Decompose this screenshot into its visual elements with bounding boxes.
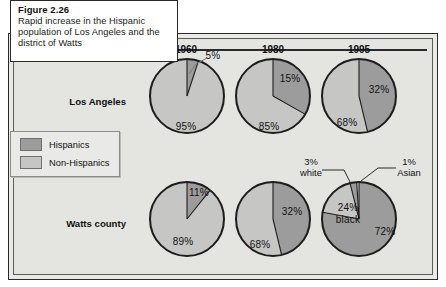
pct-watts-1995-hispanic: 72%	[375, 226, 396, 237]
column-header-1960: 1960	[175, 44, 197, 55]
legend-item-non-hispanics: Non-Hispanics	[20, 156, 119, 169]
pct-watts-1995-black-text: 24%black	[336, 202, 360, 225]
pct-watts-1980-non-hispanic: 68%	[250, 239, 271, 250]
legend: Hispanics Non-Hispanics	[10, 131, 120, 177]
figure-caption-box: Figure 2.26 Rapid increase in the Hispan…	[10, 0, 178, 62]
pct-la-1995-non-hispanic: 68%	[337, 117, 358, 128]
pct-la-1980-non-hispanic: 85%	[259, 121, 280, 132]
legend-item-hispanics: Hispanics	[20, 138, 119, 151]
column-header-1980: 1980	[262, 44, 284, 55]
annot-watts-1995-asian-name: Asian	[397, 167, 420, 178]
pct-la-1980-hispanic: 15%	[280, 73, 301, 84]
pct-la-1960-non-hispanic: 95%	[176, 121, 197, 132]
pct-watts-1980-hispanic: 32%	[282, 206, 303, 217]
pct-la-1995-hispanic: 32%	[369, 84, 390, 95]
legend-label-hispanics: Hispanics	[49, 140, 89, 150]
annot-watts-1995-white-pct: 3%	[304, 156, 318, 167]
figure-caption-text: Rapid increase in the Hispanic populatio…	[18, 16, 171, 50]
pct-watts-1960-non-hispanic: 89%	[173, 236, 194, 247]
figure-caption-title: Figure 2.26	[18, 4, 171, 16]
legend-swatch-hispanics	[20, 138, 42, 151]
pie-watts-county-1980	[234, 180, 312, 258]
pie-los-angeles-1995	[320, 57, 398, 135]
pct-watts-1960-hispanic: 11%	[189, 187, 209, 198]
column-header-1995: 1995	[348, 44, 370, 55]
legend-swatch-non-hispanics	[20, 156, 42, 169]
row-label-watts-county: Watts county	[0, 218, 126, 229]
annot-watts-1995-asian-pct: 1%	[402, 156, 416, 167]
pct-watts-1995-black: 24%black	[336, 202, 360, 225]
pct-la-1960-hispanic: 5%	[206, 50, 221, 61]
annot-watts-1995-white-name: white	[300, 167, 322, 178]
figure-stage: 1960 1980 1995 Los Angeles Watts county …	[0, 0, 446, 287]
legend-label-non-hispanics: Non-Hispanics	[49, 158, 109, 168]
row-label-los-angeles: Los Angeles	[0, 96, 126, 107]
